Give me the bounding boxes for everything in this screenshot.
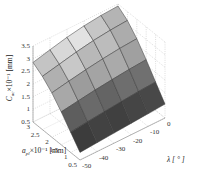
svg-text:λ [ ° ]: λ [ ° ] <box>166 155 185 164</box>
surface-plot: 0.511.522.533.50.511.522.53-50-40-30-20-… <box>0 0 204 171</box>
x-tick-label: -50 <box>82 162 92 170</box>
z-tick-label: 3 <box>27 55 31 63</box>
surface <box>33 6 165 152</box>
y-tick-label: 3 <box>27 123 31 131</box>
z-tick-label: 2 <box>27 80 31 88</box>
svg-text:Cac×10⁻¹ [mm]: Cac×10⁻¹ [mm] <box>5 55 15 101</box>
z-tick-label: 1 <box>27 105 31 113</box>
z-tick-label: 2.5 <box>21 67 30 75</box>
x-tick-label: 0 <box>167 120 171 128</box>
x-tick-label: -40 <box>99 154 109 162</box>
x-tick-label: -30 <box>116 145 126 153</box>
y-tick-label: 2 <box>45 138 49 146</box>
y-axis-label: apl×10⁻¹ [mm] <box>22 146 66 156</box>
y-tick-label: 2.5 <box>31 131 40 139</box>
z-axis-label: Cac×10⁻¹ [mm] <box>5 55 15 101</box>
y-tick-label: 0.5 <box>68 161 77 169</box>
z-tick-label: 3.5 <box>21 42 30 50</box>
x-axis-label: λ [ ° ] <box>166 155 185 164</box>
x-tick-label: -20 <box>133 137 143 145</box>
x-tick-label: -10 <box>150 128 160 136</box>
z-tick-label: 1.5 <box>21 93 30 101</box>
svg-text:apl×10⁻¹ [mm]: apl×10⁻¹ [mm] <box>22 146 66 156</box>
